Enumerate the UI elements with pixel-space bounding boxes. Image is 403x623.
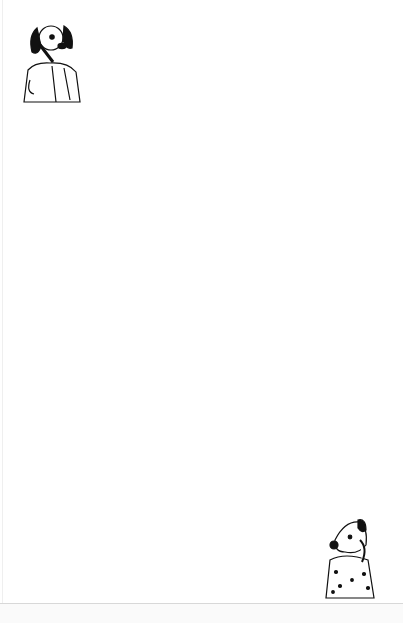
maze [0, 0, 403, 603]
background-surface [0, 604, 403, 623]
maze-worksheet [0, 0, 403, 603]
dog-on-phone-illustration [24, 26, 80, 102]
spotted-dog-on-phone-illustration [326, 520, 374, 598]
